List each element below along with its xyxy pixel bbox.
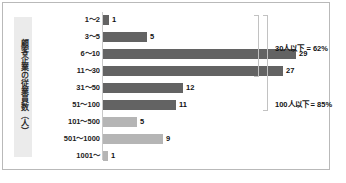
bar — [103, 83, 183, 93]
category-label: 501〜1000 — [41, 133, 100, 145]
bar-container: 12 — [103, 82, 194, 94]
bar-value-label: 1 — [112, 15, 116, 25]
annotation-100-or-fewer: 100人以下 = 85% — [275, 98, 332, 109]
category-label: 3〜5 — [41, 31, 100, 43]
table-row: 31〜50 12 — [41, 82, 326, 94]
category-label: 101〜500 — [41, 116, 100, 128]
bar — [103, 134, 163, 144]
bar-value-label: 27 — [286, 66, 294, 76]
plot-area: 1〜2 1 3〜5 5 6〜10 29 11〜30 27 — [41, 12, 326, 164]
category-label: 1〜2 — [41, 14, 100, 26]
table-row: 1001〜 1 — [41, 150, 326, 162]
bar-value-label: 5 — [150, 32, 154, 42]
bracket-30-or-fewer — [254, 15, 259, 77]
bar-value-label: 11 — [179, 100, 187, 110]
category-label: 51〜100 — [41, 99, 100, 111]
bar — [103, 151, 108, 161]
chart-frame: 顧客企業の従業員数（人） 1〜2 1 3〜5 5 6〜10 29 — [2, 2, 330, 170]
y-axis-title-label: 顧客企業の従業員数（人） — [19, 39, 27, 135]
bar-container: 1 — [103, 150, 115, 162]
category-label: 31〜50 — [41, 82, 100, 94]
bar — [103, 100, 176, 110]
bar-container: 5 — [103, 31, 154, 43]
bracket-100-or-fewer — [263, 15, 268, 111]
bar-container: 5 — [103, 116, 144, 128]
table-row: 101〜500 5 — [41, 116, 326, 128]
y-axis-title: 顧客企業の従業員数（人） — [14, 17, 32, 157]
bar — [103, 117, 137, 127]
table-row: 1〜2 1 — [41, 14, 326, 26]
category-label: 1001〜 — [41, 150, 100, 162]
table-row: 501〜1000 9 — [41, 133, 326, 145]
bar-value-label: 9 — [166, 134, 170, 144]
bar-container: 11 — [103, 99, 187, 111]
category-label: 6〜10 — [41, 48, 100, 60]
bar-value-label: 12 — [186, 83, 194, 93]
annotation-30-or-fewer: 30人以下 = 62% — [275, 42, 328, 53]
bar-container: 1 — [103, 14, 116, 26]
category-label: 11〜30 — [41, 65, 100, 77]
bar-value-label: 1 — [111, 151, 115, 161]
bar-value-label: 5 — [140, 117, 144, 127]
table-row: 11〜30 27 — [41, 65, 326, 77]
bar-container: 9 — [103, 133, 170, 145]
bar — [103, 15, 109, 25]
bar — [103, 32, 147, 42]
